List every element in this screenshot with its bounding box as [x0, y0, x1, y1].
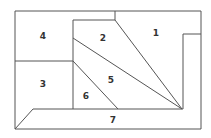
region-label-5: 5: [108, 75, 114, 85]
region-label-7: 7: [110, 115, 116, 125]
diagonal-5-6: [73, 61, 118, 109]
region-label-1: 1: [153, 28, 159, 38]
partition-diagram: 1 2 3 4 5 6 7: [0, 0, 211, 138]
diagonal-2-5: [73, 38, 182, 109]
region-7-border: [15, 109, 183, 129]
outer-boundary: [15, 11, 201, 129]
region-label-3: 3: [40, 79, 46, 89]
region-label-2: 2: [100, 33, 106, 43]
inner-block-border: [73, 11, 115, 109]
region-label-6: 6: [83, 91, 89, 101]
diagonal-1-2: [115, 20, 182, 109]
region-label-4: 4: [40, 31, 46, 41]
